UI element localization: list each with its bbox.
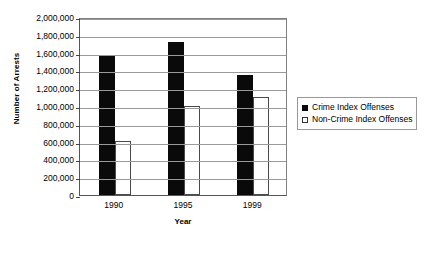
y-axis-tick-label: 1,200,000 bbox=[36, 84, 74, 94]
y-axis-tick-label: 1,000,000 bbox=[36, 102, 74, 112]
y-axis-tickmark bbox=[76, 37, 80, 38]
y-axis-tick-label: 1,400,000 bbox=[36, 66, 74, 76]
bar bbox=[237, 75, 253, 195]
gridline bbox=[80, 19, 286, 20]
bar bbox=[184, 106, 200, 195]
y-axis-tick-label: 200,000 bbox=[43, 173, 74, 183]
y-axis-tickmark bbox=[76, 72, 80, 73]
y-axis-tick-label: 2,000,000 bbox=[36, 13, 74, 23]
y-axis-tick-label: 800,000 bbox=[43, 120, 74, 130]
x-axis-tick-labels: 199019951999 bbox=[79, 200, 287, 214]
bar-group bbox=[219, 19, 288, 195]
y-axis-tickmark bbox=[76, 126, 80, 127]
legend-label: Crime Index Offenses bbox=[312, 102, 394, 113]
gridline bbox=[80, 161, 286, 162]
y-axis-tickmark bbox=[76, 19, 80, 20]
bar bbox=[168, 42, 184, 195]
bar bbox=[115, 141, 131, 195]
clipped-caption bbox=[0, 248, 430, 257]
y-axis-tickmark bbox=[76, 108, 80, 109]
gridline bbox=[80, 144, 286, 145]
gridline bbox=[80, 108, 286, 109]
x-axis-tick-label: 1999 bbox=[243, 200, 262, 210]
y-axis-tick-labels: 0200,000400,000600,000800,0001,000,0001,… bbox=[8, 0, 74, 257]
bar-group bbox=[80, 19, 149, 195]
gridline bbox=[80, 90, 286, 91]
y-axis-tick-label: 400,000 bbox=[43, 155, 74, 165]
legend-swatch-icon bbox=[302, 105, 308, 111]
y-axis-tick-label: 0 bbox=[69, 191, 74, 201]
plot-area bbox=[79, 18, 287, 196]
legend-item: Non-Crime Index Offenses bbox=[302, 114, 412, 125]
y-axis-tickmark bbox=[76, 197, 80, 198]
legend-swatch-icon bbox=[302, 117, 308, 123]
gridline bbox=[80, 126, 286, 127]
bar bbox=[253, 97, 269, 195]
x-axis-title: Year bbox=[79, 217, 287, 226]
gridline bbox=[80, 55, 286, 56]
y-axis-tick-label: 1,600,000 bbox=[36, 49, 74, 59]
legend-item: Crime Index Offenses bbox=[302, 102, 412, 113]
y-axis-tick-label: 600,000 bbox=[43, 138, 74, 148]
x-axis-tick-label: 1995 bbox=[174, 200, 193, 210]
y-axis-tick-label: 1,800,000 bbox=[36, 31, 74, 41]
gridline bbox=[80, 37, 286, 38]
chart-legend: Crime Index OffensesNon-Crime Index Offe… bbox=[297, 97, 417, 130]
y-axis-tickmark bbox=[76, 55, 80, 56]
y-axis-tickmark bbox=[76, 90, 80, 91]
legend-label: Non-Crime Index Offenses bbox=[312, 114, 412, 125]
bar-chart: Number of Arrests 0200,000400,000600,000… bbox=[0, 0, 430, 257]
bar-group bbox=[149, 19, 218, 195]
y-axis-tickmark bbox=[76, 144, 80, 145]
y-axis-tickmark bbox=[76, 179, 80, 180]
bar-groups bbox=[80, 19, 286, 195]
gridline bbox=[80, 72, 286, 73]
y-axis-tickmark bbox=[76, 161, 80, 162]
x-axis-tick-label: 1990 bbox=[104, 200, 123, 210]
gridline bbox=[80, 179, 286, 180]
